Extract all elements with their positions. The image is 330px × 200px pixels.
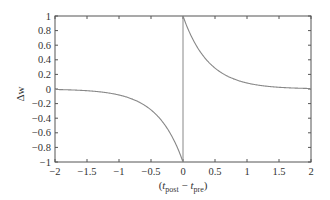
- x-tick-label: −1.5: [77, 166, 96, 177]
- y-tick-label: −0.2: [32, 98, 51, 109]
- x-label-sub-pre: pre: [193, 185, 204, 194]
- x-tick-label: 0.5: [208, 166, 221, 177]
- stdp-chart: −2−1.5−1−0.500.511.52 10.80.60.40.20−0.2…: [0, 0, 330, 200]
- y-tick-label: −0.8: [32, 142, 51, 153]
- x-label-minus: −: [179, 179, 191, 191]
- x-label-close: ): [204, 179, 208, 192]
- y-tick-label: −1: [40, 157, 51, 168]
- x-tick-label: 1: [244, 166, 249, 177]
- y-tick-label: 0.8: [38, 25, 51, 36]
- y-tick-label: −0.6: [32, 127, 51, 138]
- y-tick-label: 0.4: [38, 54, 52, 65]
- y-tick-label: 1: [46, 11, 51, 22]
- y-tick-label: 0.2: [38, 69, 51, 80]
- x-axis-tick-labels: −2−1.5−1−0.500.511.52: [49, 166, 313, 177]
- x-tick-label: 1.5: [272, 166, 285, 177]
- y-tick-label: 0: [46, 84, 51, 95]
- data-line-negative: [55, 89, 183, 162]
- y-tick-label: −0.4: [32, 113, 52, 124]
- y-axis-tick-labels: 10.80.60.40.20−0.2−0.4−0.6−0.8−1: [32, 11, 52, 168]
- x-tick-label: −2: [49, 166, 60, 177]
- x-axis-label: (tpost − tpre): [159, 179, 208, 194]
- x-tick-label: −0.5: [141, 166, 160, 177]
- x-tick-label: 0: [180, 166, 185, 177]
- data-line-positive: [183, 16, 311, 89]
- plot-area: −2−1.5−1−0.500.511.52 10.80.60.40.20−0.2…: [32, 11, 314, 178]
- x-label-sub-post: post: [165, 185, 179, 194]
- y-tick-label: 0.6: [38, 40, 51, 51]
- x-tick-label: −1: [113, 166, 124, 177]
- x-tick-label: 2: [308, 166, 313, 177]
- y-axis-label: Δw: [14, 86, 26, 101]
